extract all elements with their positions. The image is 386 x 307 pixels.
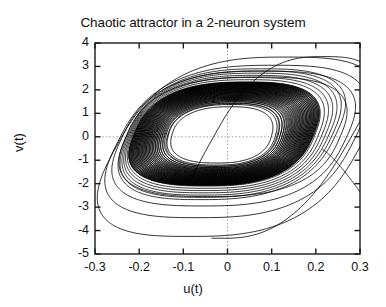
y-tick-label: 4 [63, 35, 89, 49]
y-tick-label: -5 [63, 246, 89, 260]
y-tick-label: -4 [63, 223, 89, 237]
y-tick-label: 1 [63, 105, 89, 119]
x-tick-label: -0.1 [163, 260, 203, 274]
y-tick-label: -1 [63, 152, 89, 166]
x-tick-label: -0.3 [75, 260, 115, 274]
chart-figure: Chaotic attractor in a 2-neuron system v… [0, 0, 386, 307]
x-tick-label: 0.1 [252, 260, 292, 274]
y-tick-label: 3 [63, 58, 89, 72]
x-tick-label: 0.2 [296, 260, 336, 274]
attractor-trajectory [97, 57, 379, 239]
y-tick-label: 0 [63, 129, 89, 143]
y-tick-label: 2 [63, 82, 89, 96]
y-tick-label: -3 [63, 199, 89, 213]
y-tick-label: -2 [63, 176, 89, 190]
x-tick-label: 0.3 [340, 260, 380, 274]
x-tick-label: -0.2 [119, 260, 159, 274]
x-tick-label: 0 [208, 260, 248, 274]
